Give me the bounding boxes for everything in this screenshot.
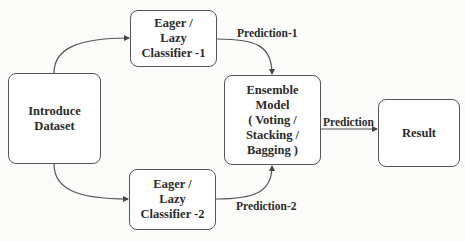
node-introduce-dataset: Introduce Dataset [8,73,101,164]
node-text: Classifier -2 [141,207,205,222]
edge-classifier2-to-ensemble [216,166,272,199]
node-classifier-2: Eager / Lazy Classifier -2 [129,169,216,230]
node-result: Result [378,99,460,167]
edge-dataset-to-classifier1 [54,38,129,73]
node-text: Model [255,98,289,113]
node-text: Lazy [160,31,186,46]
node-text: Bagging ) [247,143,298,158]
node-text: Classifier -1 [142,46,206,61]
edge-label-prediction-2: Prediction-2 [236,200,296,212]
node-text: Stacking / [246,128,299,143]
edge-label-prediction: Prediction [323,116,374,128]
node-text: Introduce [28,104,81,119]
node-text: Dataset [34,119,74,134]
node-text: ( Voting / [248,113,297,128]
edge-label-prediction-1: Prediction-1 [237,27,297,39]
node-text: Eager / [153,177,191,192]
node-text: Ensemble [246,83,298,98]
node-text: Result [402,126,436,141]
node-ensemble-model: Ensemble Model ( Voting / Stacking / Bag… [224,75,321,165]
node-text: Eager / [154,16,192,31]
node-text: Lazy [159,192,185,207]
node-classifier-1: Eager / Lazy Classifier -1 [130,10,217,67]
edge-classifier1-to-ensemble [217,39,272,74]
edge-dataset-to-classifier2 [54,164,128,199]
